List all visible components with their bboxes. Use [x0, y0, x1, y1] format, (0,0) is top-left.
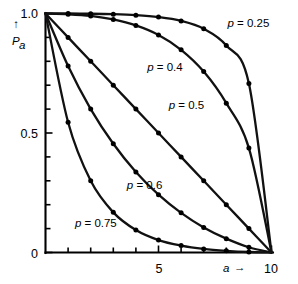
data-point	[224, 236, 229, 241]
data-point	[156, 15, 161, 20]
y-tick-label-1: 1.0	[21, 7, 38, 21]
data-point	[133, 107, 138, 112]
data-point	[156, 131, 161, 136]
data-point	[201, 225, 206, 230]
series-label-p-0point6: p = 0.6	[126, 179, 163, 191]
data-point	[88, 13, 93, 18]
data-point	[111, 141, 116, 146]
data-point	[246, 250, 251, 255]
series-label-p-0point75: p = 0.75	[74, 217, 117, 229]
data-point	[201, 26, 206, 31]
chart-plot-area: 1.0 0.5 0 5 10 ↑ P a a → p = 0.25p = 0.4…	[0, 0, 298, 284]
data-point	[246, 245, 251, 250]
data-point	[246, 81, 251, 86]
data-point	[133, 13, 138, 18]
data-point	[66, 120, 71, 125]
x-axis-arrow-icon: →	[234, 261, 246, 273]
y-tick-label-0: 0	[31, 247, 38, 261]
data-point	[66, 12, 71, 17]
data-point	[156, 33, 161, 38]
series-label-p-0point25: p = 0.25	[226, 17, 269, 29]
data-point	[111, 83, 116, 88]
data-point	[224, 101, 229, 106]
data-point	[179, 210, 184, 215]
data-point	[111, 12, 116, 17]
y-tick-label-0point5: 0.5	[21, 127, 38, 141]
data-point	[201, 69, 206, 74]
data-point	[201, 246, 206, 251]
series-label-p-0point4: p = 0.4	[146, 61, 183, 73]
data-point	[156, 192, 161, 197]
data-point	[133, 23, 138, 28]
data-point	[179, 243, 184, 248]
series-label-p-0point5: p = 0.5	[168, 99, 205, 111]
x-axis-title: a →	[223, 261, 246, 274]
y-axis-subscript: a	[19, 39, 25, 51]
data-point	[133, 169, 138, 174]
data-point	[111, 17, 116, 22]
data-point	[179, 47, 184, 52]
x-axis-symbol: a	[223, 262, 229, 274]
data-point	[133, 228, 138, 233]
x-tick-label-5: 5	[156, 262, 163, 276]
data-point	[179, 154, 184, 159]
chart-figure: 1.0 0.5 0 5 10 ↑ P a a → p = 0.25p = 0.4…	[0, 0, 298, 284]
data-point	[66, 64, 71, 69]
data-point	[88, 107, 93, 112]
data-point	[88, 59, 93, 64]
data-point	[66, 35, 71, 40]
data-point	[224, 248, 229, 253]
x-tick-label-10: 10	[264, 262, 278, 276]
data-point	[179, 18, 184, 23]
y-axis-arrow-icon: ↑	[13, 18, 19, 30]
data-point	[246, 146, 251, 151]
data-point	[156, 238, 161, 243]
data-point	[224, 202, 229, 207]
y-axis-title: ↑ P a	[12, 18, 25, 51]
data-point	[246, 226, 251, 231]
data-point	[224, 43, 229, 48]
data-point	[201, 178, 206, 183]
data-point	[88, 178, 93, 183]
data-point	[111, 210, 116, 215]
